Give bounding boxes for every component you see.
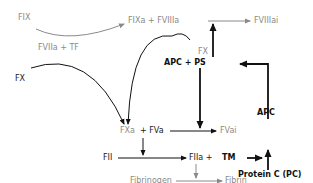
arrow-fx-left-to-fxa bbox=[31, 64, 124, 124]
node-apc-ps: APC + PS bbox=[164, 58, 206, 68]
node-fxa: FXa bbox=[120, 126, 135, 136]
node-fviiiai: FVIIIai bbox=[254, 16, 278, 26]
node-fix: FIX bbox=[18, 13, 30, 23]
node-protein-c: Protein C (PC) bbox=[238, 170, 301, 180]
node-tm: TM bbox=[222, 153, 235, 163]
arrow-fx-right-to-fxa bbox=[128, 36, 172, 124]
node-fibrin: Fibrin bbox=[225, 176, 247, 183]
node-fiia: FIIa + bbox=[189, 153, 212, 163]
node-fx-right: FX bbox=[198, 47, 208, 57]
node-fii: FII bbox=[103, 153, 112, 163]
fx-right-arc bbox=[172, 34, 190, 40]
node-fvai: FVai bbox=[220, 126, 237, 136]
node-apc: APC bbox=[257, 108, 275, 118]
node-fibrinogen: Fibrinogen bbox=[130, 176, 172, 183]
node-fx-left: FX bbox=[15, 74, 25, 84]
node-fixa-fviiia: FIXa + FVIIIa bbox=[128, 16, 179, 26]
node-fviia-tf: FVIIa + TF bbox=[38, 43, 79, 53]
diagram-arrows bbox=[0, 0, 313, 183]
arrow-fix-to-fixa bbox=[36, 24, 124, 36]
coagulation-diagram: FIX FIXa + FVIIIa FVIIIai FVIIa + TF FX … bbox=[0, 0, 313, 183]
node-plus-fva: + FVa bbox=[140, 126, 164, 136]
